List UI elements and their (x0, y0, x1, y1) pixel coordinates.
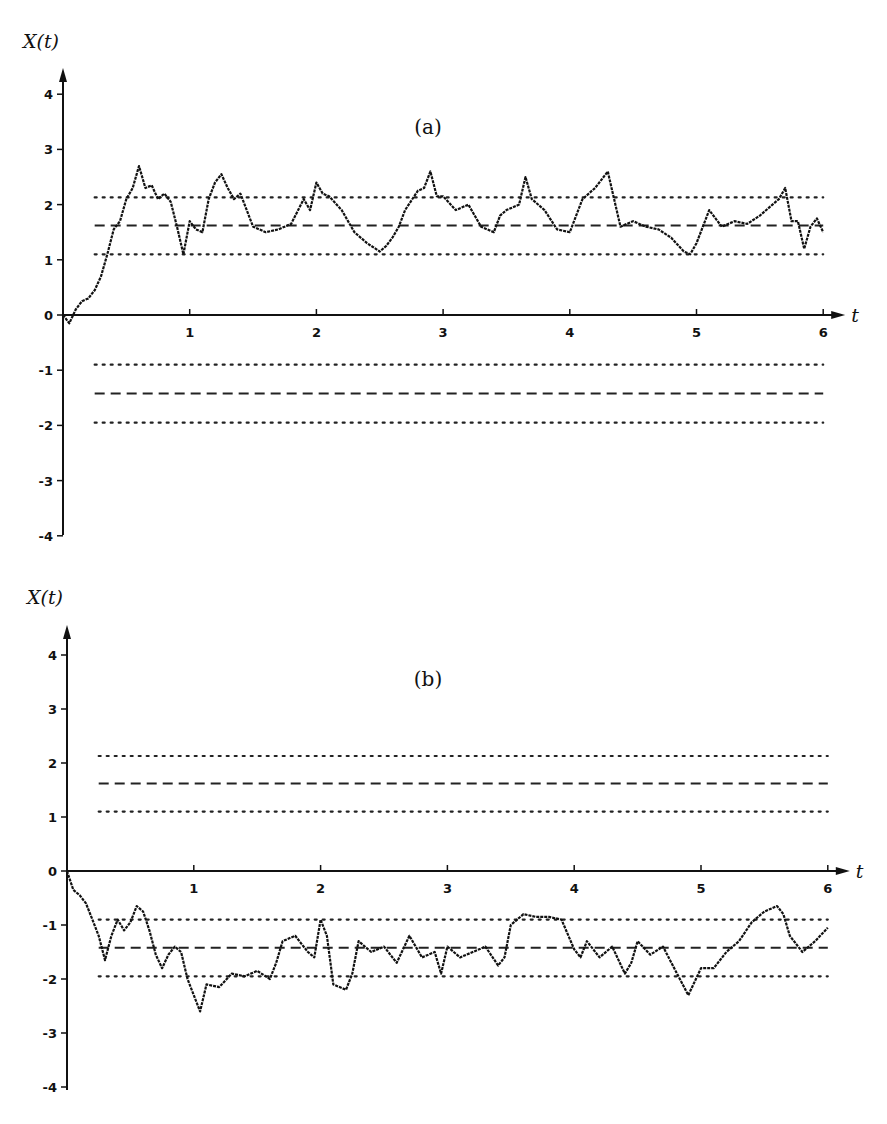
y-axis-arrow-icon (63, 625, 71, 639)
panel-b: 43210-1-2-3-4123456X(t)t(b) (25, 586, 864, 1095)
sample-path-line (63, 166, 823, 323)
x-tick-label: 3 (439, 325, 448, 340)
y-tick-label: 3 (44, 142, 53, 157)
y-axis-title: X(t) (25, 586, 63, 608)
x-tick-label: 6 (823, 881, 832, 896)
y-tick-label: 3 (48, 702, 57, 717)
y-tick-label: 4 (48, 648, 57, 663)
y-axis-arrow-icon (59, 68, 67, 82)
y-tick-label: -1 (39, 363, 53, 378)
y-tick-label: -2 (39, 418, 53, 433)
x-axis-arrow-icon (836, 867, 850, 875)
x-tick-label: 5 (696, 881, 705, 896)
y-tick-label: -3 (43, 1026, 57, 1041)
x-tick-label: 4 (570, 881, 579, 896)
x-tick-label: 2 (316, 881, 325, 896)
x-axis-title: t (856, 860, 864, 882)
y-tick-label: -3 (39, 474, 53, 489)
x-tick-label: 1 (185, 325, 194, 340)
x-tick-label: 1 (189, 881, 198, 896)
panel-label: (a) (414, 115, 442, 139)
x-tick-label: 2 (312, 325, 321, 340)
x-tick-label: 4 (565, 325, 574, 340)
y-tick-label: 0 (48, 864, 57, 879)
x-tick-label: 5 (692, 325, 701, 340)
y-tick-label: 1 (44, 253, 53, 268)
y-axis-title: X(t) (21, 30, 59, 52)
y-tick-label: -4 (39, 529, 53, 544)
y-tick-label: 1 (48, 810, 57, 825)
y-tick-label: 2 (48, 756, 57, 771)
x-axis-arrow-icon (831, 311, 845, 319)
chart-canvas: 43210-1-2-3-4123456X(t)t(a) 43210-1-2-3-… (0, 0, 887, 1124)
y-tick-label: -4 (43, 1080, 57, 1095)
y-tick-label: 4 (44, 87, 53, 102)
x-tick-label: 3 (443, 881, 452, 896)
x-axis-title: t (851, 304, 859, 326)
x-tick-label: 6 (819, 325, 828, 340)
panel-a: 43210-1-2-3-4123456X(t)t(a) (21, 30, 859, 544)
y-tick-label: -2 (43, 972, 57, 987)
y-tick-label: -1 (43, 918, 57, 933)
panel-label: (b) (414, 667, 442, 691)
y-tick-label: 0 (44, 308, 53, 323)
y-tick-label: 2 (44, 198, 53, 213)
